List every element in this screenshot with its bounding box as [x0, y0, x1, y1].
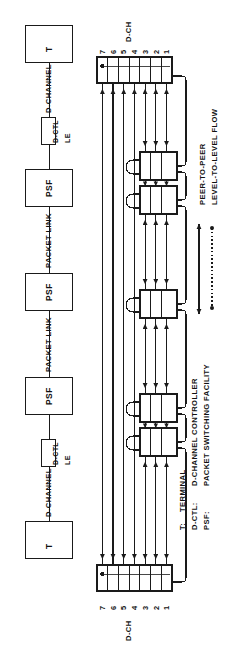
- protocol-stack-graphics: [0, 0, 242, 648]
- layer-label-7-top: 7: [98, 49, 107, 54]
- layer-label-7-bottom: 7: [98, 605, 107, 610]
- legend-meaning-psf: PACKET SWITCHING FACILITY: [202, 364, 211, 486]
- layer-label-6-top: 6: [109, 49, 118, 54]
- d-ch-axis-label-top: D-CH: [124, 21, 133, 42]
- legend-level-to-level-label: LEVEL-TO-LEVEL FLOW: [210, 109, 219, 205]
- layer-label-2-bottom: 2: [152, 605, 161, 610]
- legend-abbr-dctl: D-CTL:: [190, 502, 199, 530]
- legend-meaning-t: TERMINAL: [178, 470, 187, 512]
- diagram-canvas: T D-CHANNEL D-CTL LE PSF PACKET LINK PSF…: [0, 0, 242, 648]
- layer-label-4-bottom: 4: [130, 605, 139, 610]
- layer-label-2-top: 2: [152, 49, 161, 54]
- layer-label-1-top: 1: [162, 49, 171, 54]
- legend-abbr-psf: PSF:: [202, 511, 211, 530]
- legend-abbr-t: T:: [178, 523, 187, 530]
- layer-label-3-top: 3: [141, 49, 150, 54]
- legend-meaning-dctl: D-CHANNEL CONTROLLER: [190, 378, 199, 486]
- legend-peer-to-peer-label: PEER-TO-PEER: [198, 143, 207, 205]
- layer-label-5-bottom: 5: [119, 605, 128, 610]
- layer-label-4-top: 4: [130, 49, 139, 54]
- layer-label-5-top: 5: [119, 49, 128, 54]
- layer-label-6-bottom: 6: [109, 605, 118, 610]
- layer-label-1-bottom: 1: [162, 605, 171, 610]
- d-ch-axis-label-bottom: D-CH: [124, 620, 133, 641]
- layer-label-3-bottom: 3: [141, 605, 150, 610]
